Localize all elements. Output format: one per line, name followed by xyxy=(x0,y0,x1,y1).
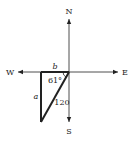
east-label: E xyxy=(122,68,128,77)
side-a-label: a xyxy=(34,92,39,101)
south-label: S xyxy=(66,127,71,136)
west-label: W xyxy=(6,68,15,77)
compass-triangle-diagram: N S W E b a 120 61° xyxy=(0,0,133,143)
side-b-label: b xyxy=(52,62,57,71)
hypotenuse-label: 120 xyxy=(54,98,69,107)
north-label: N xyxy=(66,7,73,16)
angle-label: 61° xyxy=(48,76,62,85)
